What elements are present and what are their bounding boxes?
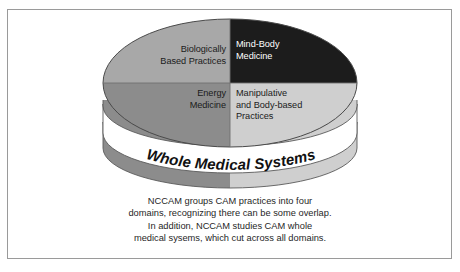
caption-line-3: In addition, NCCAM studies CAM whole [30,220,430,232]
quadrant-label-mind-body-medicine: Mind-Body Medicine [236,39,346,62]
quadrant-label-biologically-based-practices: Biologically Based Practices [126,44,226,67]
figure-root: Whole Medical Systems Biologically Based… [0,0,460,272]
caption-line-2: domains, recognizing there can be some o… [30,207,430,219]
caption-line-1: NCCAM groups CAM practices into four [30,195,430,207]
quadrant-label-manipulative-and-body-based-practices: Manipulative and Body-based Practices [236,88,351,123]
figure-caption: NCCAM groups CAM practices into four dom… [30,195,430,245]
quadrant-label-energy-medicine: Energy Medicine [126,88,226,111]
caption-line-4: medical sysems, which cut across all dom… [30,232,430,244]
